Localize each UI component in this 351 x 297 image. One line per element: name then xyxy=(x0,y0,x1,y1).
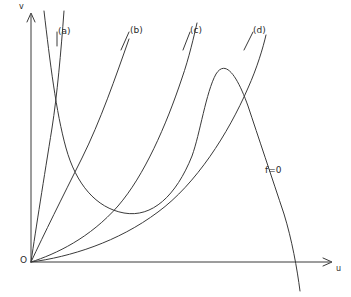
u-axis-label: u xyxy=(336,264,341,273)
curve-label-c: (c) xyxy=(190,25,202,35)
label-leader-lines xyxy=(57,32,253,50)
trajectory-c-curve xyxy=(31,23,197,262)
figure-canvas: v u O (a) (b) (c) (d) f=0 xyxy=(0,0,351,297)
origin-label: O xyxy=(20,255,27,265)
phase-plane-diagram xyxy=(0,0,351,297)
trajectory-a-curve xyxy=(31,11,64,262)
leader-line-d xyxy=(244,32,253,50)
curve-label-a: (a) xyxy=(58,26,71,36)
v-axis-label: v xyxy=(19,2,24,11)
axes-group xyxy=(27,13,332,266)
leader-line-c xyxy=(183,32,190,50)
curve-label-b: (b) xyxy=(130,25,143,35)
nullcline-label: f=0 xyxy=(265,165,281,175)
trajectory-b-curve xyxy=(31,39,129,262)
curve-label-d: (d) xyxy=(253,25,266,35)
trajectories-group xyxy=(31,11,266,262)
